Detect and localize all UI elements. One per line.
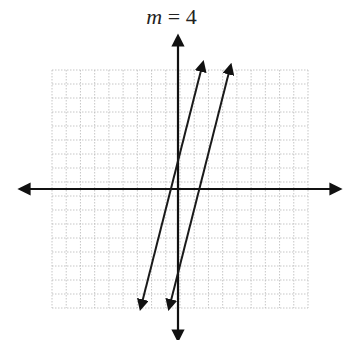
plotted-lines (141, 66, 230, 305)
coordinate-plane (0, 0, 343, 340)
line-1 (141, 66, 202, 305)
